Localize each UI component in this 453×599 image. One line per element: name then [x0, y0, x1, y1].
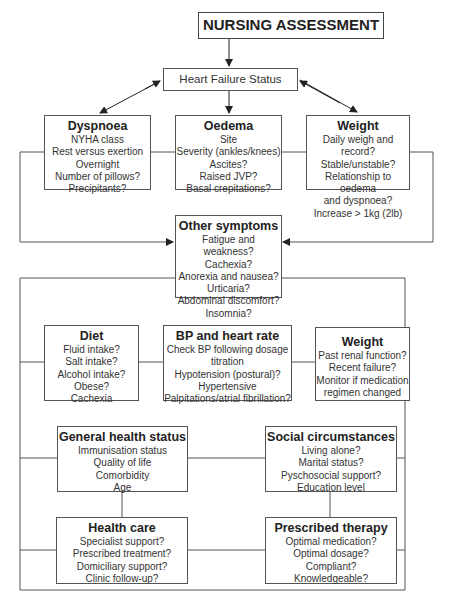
box-title: Health care — [57, 521, 187, 536]
box-line: Daily weigh and record? — [307, 134, 409, 159]
box-line: Compliant? — [266, 561, 396, 573]
social-circumstances-box: Social circumstances Living alone? Marit… — [265, 426, 397, 492]
box-line: Urticaria? — [176, 283, 281, 295]
box-line: Knowledgeable? — [266, 573, 396, 585]
box-line: Raised JVP? — [176, 171, 281, 183]
box-line: Site — [176, 134, 281, 146]
box-line: NYHA class — [45, 134, 150, 146]
box-title: BP and heart rate — [164, 329, 291, 344]
box-line: Domiciliary support? — [57, 561, 187, 573]
health-care-box: Health care Specialist support? Prescrib… — [56, 517, 188, 584]
box-line: Basal crepitations? — [176, 183, 281, 195]
box-line: Clinic follow-up? — [57, 573, 187, 585]
box-line: Relationship to oedema — [307, 171, 409, 196]
box-line: Cachexia? — [176, 259, 281, 271]
bp-heart-rate-box: BP and heart rate Check BP following dos… — [163, 325, 292, 401]
box-line: and dyspnoea? — [307, 195, 409, 207]
box-title: Prescribed therapy — [266, 521, 396, 536]
diet-box: Diet Fluid intake? Salt intake? Alcohol … — [44, 325, 139, 401]
box-line: Hypotension (postural)? — [164, 369, 291, 381]
box-line: Pyschosocial support? — [266, 470, 396, 482]
box-line: Fatigue and weakness? — [176, 234, 281, 259]
box-line: Age — [58, 482, 187, 494]
box-line: regimen changed — [316, 387, 409, 399]
box-line: Living alone? — [266, 445, 396, 457]
box-line: Cachexia — [45, 393, 138, 405]
box-line: Marital status? — [266, 457, 396, 469]
other-symptoms-box: Other symptoms Fatigue and weakness? Cac… — [175, 215, 282, 298]
box-title: Weight — [307, 119, 409, 134]
box-line: Alcohol intake? — [45, 369, 138, 381]
box-line: Overnight — [45, 159, 150, 171]
oedema-box: Oedema Site Severity (ankles/knees) Asci… — [175, 115, 282, 190]
box-line: Precipitants? — [45, 183, 150, 195]
box-line: Palpitations/atrial fibrillation? — [164, 393, 291, 405]
box-line: Hypertensive — [164, 381, 291, 393]
dyspnoea-box: Dyspnoea NYHA class Rest versus exertion… — [44, 115, 151, 190]
box-line: Insomnia? — [176, 308, 281, 320]
box-line: Obese? — [45, 381, 138, 393]
box-line: Stable/unstable? — [307, 159, 409, 171]
box-line: Comorbidity — [58, 470, 187, 482]
box-line: Severity (ankles/knees) — [176, 146, 281, 158]
box-line: Recent failure? — [316, 362, 409, 374]
box-title: Other symptoms — [176, 219, 281, 234]
weight-top-box: Weight Daily weigh and record? Stable/un… — [306, 115, 410, 190]
box-title: Diet — [45, 329, 138, 344]
box-line: Quality of life — [58, 457, 187, 469]
box-title: Weight — [316, 335, 409, 350]
box-line: Education level — [266, 482, 396, 494]
box-line: Specialist support? — [57, 536, 187, 548]
box-line: Monitor if medication — [316, 375, 409, 387]
box-line: Rest versus exertion — [45, 146, 150, 158]
heart-failure-status-box: Heart Failure Status — [163, 68, 298, 91]
box-line: Prescribed treatment? — [57, 548, 187, 560]
box-line: titration — [164, 356, 291, 368]
box-title: Social circumstances — [266, 430, 396, 445]
box-line: Immunisation status — [58, 445, 187, 457]
box-line: Optimal medication? — [266, 536, 396, 548]
box-line: Anorexia and nausea? — [176, 271, 281, 283]
box-line: Past renal function? — [316, 350, 409, 362]
box-line: Fluid intake? — [45, 344, 138, 356]
general-health-box: General health status Immunisation statu… — [57, 426, 188, 492]
box-title: Dyspnoea — [45, 119, 150, 134]
prescribed-therapy-box: Prescribed therapy Optimal medication? O… — [265, 517, 397, 584]
box-line: Ascites? — [176, 159, 281, 171]
box-line: Salt intake? — [45, 356, 138, 368]
box-line: Abdominal discomfort? — [176, 295, 281, 307]
nursing-assessment-title: NURSING ASSESSMENT — [198, 12, 384, 39]
box-line: Number of pillows? — [45, 171, 150, 183]
box-title: General health status — [58, 430, 187, 445]
weight-mid-box: Weight Past renal function? Recent failu… — [315, 327, 410, 401]
box-line: Optimal dosage? — [266, 548, 396, 560]
box-line: Increase > 1kg (2lb) — [307, 208, 409, 220]
box-title: Oedema — [176, 119, 281, 134]
box-line: Check BP following dosage — [164, 344, 291, 356]
